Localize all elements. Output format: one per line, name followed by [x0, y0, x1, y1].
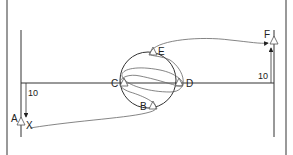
- label-c: C: [111, 78, 118, 89]
- diagram-canvas: 10 10 A X B C D E F: [0, 0, 293, 155]
- label-e: E: [158, 46, 165, 57]
- left-dimension-label: 10: [28, 88, 38, 98]
- station-a-triangle: [17, 117, 25, 125]
- label-d: D: [186, 78, 193, 89]
- label-a: A: [11, 113, 18, 124]
- right-dimension-label: 10: [258, 71, 268, 81]
- label-x: X: [26, 120, 33, 131]
- station-f-triangle: [270, 36, 278, 44]
- label-f: F: [264, 29, 270, 40]
- label-b: B: [140, 101, 147, 112]
